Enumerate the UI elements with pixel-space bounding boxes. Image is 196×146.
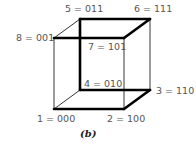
vertex-label-4: 4 = 010 bbox=[84, 78, 122, 89]
vertex-label-8: 8 = 001 bbox=[16, 32, 54, 43]
edge-7-6 bbox=[124, 19, 150, 38]
vertex-label-2: 2 = 100 bbox=[107, 113, 145, 124]
vertex-label-3: 3 = 110 bbox=[156, 85, 194, 96]
edge-1-4 bbox=[54, 90, 80, 109]
vertex-label-7: 7 = 101 bbox=[88, 41, 126, 52]
edge-3-2 bbox=[124, 90, 150, 109]
vertex-label-5: 5 = 011 bbox=[65, 3, 103, 14]
vertex-label-1: 1 = 000 bbox=[37, 113, 75, 124]
vertex-label-6: 6 = 111 bbox=[134, 3, 172, 14]
edge-8-5 bbox=[54, 19, 80, 38]
figure-caption: (b) bbox=[80, 128, 97, 139]
hypercube-diagram: 5 = 011 6 = 111 8 = 001 7 = 101 4 = 010 … bbox=[0, 0, 196, 146]
